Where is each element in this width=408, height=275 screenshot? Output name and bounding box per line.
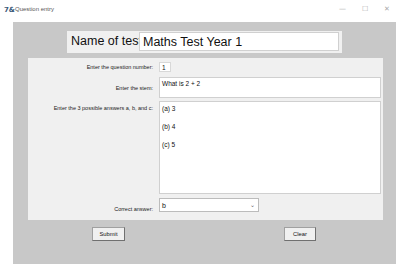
test-name-label: Name of test — [71, 33, 142, 49]
maximize-icon[interactable]: ☐ — [362, 5, 368, 13]
question-number-input[interactable]: 1 — [159, 62, 171, 72]
submit-button[interactable]: Submit — [92, 227, 125, 241]
correct-answer-label: Correct answer: — [114, 205, 153, 213]
answer-line-a: (a) 3 — [162, 104, 378, 122]
clear-button[interactable]: Clear — [284, 227, 316, 241]
stem-input[interactable]: What is 2 + 2 — [159, 77, 381, 98]
app-icon: 7& — [4, 6, 15, 14]
close-icon[interactable]: ✕ — [384, 5, 390, 13]
answers-label: Enter the 3 possible answers a, b, and c… — [54, 104, 153, 112]
chevron-down-icon[interactable]: ⌄ — [250, 199, 255, 210]
test-name-input[interactable]: Maths Test Year 1 — [139, 32, 339, 51]
minimize-icon[interactable]: — — [339, 5, 346, 13]
answer-line-c: (c) 5 — [162, 140, 378, 158]
answer-line-b: (b) 4 — [162, 122, 378, 140]
stem-label: Enter the stem: — [116, 84, 153, 92]
question-number-label: Enter the question number: — [87, 63, 153, 71]
title-bar: 7& Question entry — ☐ ✕ — [0, 0, 408, 22]
window-title: Question entry — [15, 6, 54, 12]
correct-answer-select[interactable]: b ⌄ — [159, 198, 259, 212]
correct-answer-value: b — [162, 202, 166, 209]
answers-textarea[interactable]: (a) 3 (b) 4 (c) 5 — [159, 101, 381, 194]
